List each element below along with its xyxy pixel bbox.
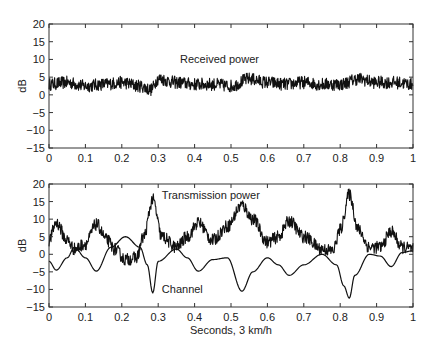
x-tick-label: 0.9 bbox=[369, 152, 384, 164]
x-tick-label: 0.1 bbox=[78, 311, 93, 323]
bottom-panel-transmission-channel: 00.10.20.30.40.50.60.70.80.9120151050−5−… bbox=[16, 178, 416, 336]
x-tick-label: 0.7 bbox=[296, 311, 311, 323]
y-tick-label: 10 bbox=[33, 53, 45, 65]
y-tick-label: 15 bbox=[33, 36, 45, 48]
x-tick-label: 0 bbox=[46, 311, 52, 323]
y-tick-label: 15 bbox=[33, 196, 45, 208]
transmission-power-annotation: Transmission power bbox=[162, 189, 260, 201]
x-axis-label: Seconds, 3 km/h bbox=[190, 324, 272, 336]
x-tick-label: 1 bbox=[410, 311, 416, 323]
y-tick-label: 5 bbox=[39, 71, 45, 83]
received-power-line bbox=[49, 73, 413, 95]
y-tick-label: 0 bbox=[39, 248, 45, 260]
top-panel-received-power: 00.10.20.30.40.50.60.70.80.9120151050−5−… bbox=[16, 18, 416, 164]
x-tick-label: 0.3 bbox=[151, 311, 166, 323]
y-tick-label: 20 bbox=[33, 18, 45, 30]
x-tick-label: 0.4 bbox=[187, 311, 202, 323]
y-axis-label: dB bbox=[16, 79, 28, 92]
channel-annotation: Channel bbox=[162, 283, 203, 295]
y-tick-label: −15 bbox=[26, 301, 45, 313]
y-tick-label: −5 bbox=[32, 107, 45, 119]
chart-canvas: 00.10.20.30.40.50.60.70.80.9120151050−5−… bbox=[0, 0, 434, 352]
y-tick-label: 20 bbox=[33, 178, 45, 190]
axes-frame bbox=[49, 184, 413, 307]
x-tick-label: 0.2 bbox=[114, 152, 129, 164]
y-tick-label: −5 bbox=[32, 266, 45, 278]
x-tick-label: 0 bbox=[46, 152, 52, 164]
y-tick-label: −10 bbox=[26, 283, 45, 295]
x-tick-label: 0.4 bbox=[187, 152, 202, 164]
x-tick-label: 0.5 bbox=[223, 152, 238, 164]
x-tick-label: 0.5 bbox=[223, 311, 238, 323]
y-axis-label: dB bbox=[16, 239, 28, 252]
y-tick-label: 0 bbox=[39, 89, 45, 101]
received-power-annotation: Received power bbox=[180, 53, 259, 65]
channel-line bbox=[49, 237, 413, 298]
x-tick-label: 0.2 bbox=[114, 311, 129, 323]
x-tick-label: 0.6 bbox=[260, 311, 275, 323]
y-tick-label: 10 bbox=[33, 213, 45, 225]
y-tick-label: 5 bbox=[39, 231, 45, 243]
x-tick-label: 1 bbox=[410, 152, 416, 164]
x-tick-label: 0.6 bbox=[260, 152, 275, 164]
x-tick-label: 0.8 bbox=[333, 311, 348, 323]
x-tick-label: 0.8 bbox=[333, 152, 348, 164]
x-tick-label: 0.1 bbox=[78, 152, 93, 164]
x-tick-label: 0.7 bbox=[296, 152, 311, 164]
x-tick-label: 0.9 bbox=[369, 311, 384, 323]
y-tick-label: −15 bbox=[26, 142, 45, 154]
x-tick-label: 0.3 bbox=[151, 152, 166, 164]
y-tick-label: −10 bbox=[26, 124, 45, 136]
